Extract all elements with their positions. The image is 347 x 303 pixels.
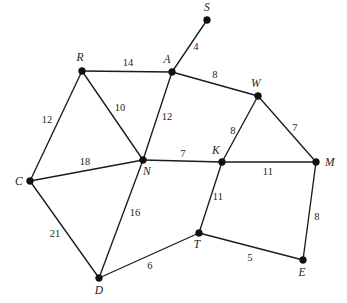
graph-node-t: [196, 230, 203, 237]
graph-node-a: [169, 69, 176, 76]
graph-node-r: [79, 68, 86, 75]
edge-layer: [30, 20, 316, 278]
graph-node-k: [219, 159, 226, 166]
graph-edge-c-d: [30, 181, 99, 278]
graph-node-c: [27, 178, 34, 185]
graph-edge-n-k: [143, 160, 222, 162]
graph-edge-w-m: [258, 96, 316, 162]
graph-node-d: [96, 275, 103, 282]
graph-node-s: [204, 17, 211, 24]
graph-node-e: [300, 257, 307, 264]
graph-edge-r-n: [82, 71, 143, 160]
graph-edge-t-e: [199, 233, 303, 260]
graph-node-m: [313, 159, 320, 166]
graph-edge-c-n: [30, 160, 143, 181]
graph-edge-w-k: [222, 96, 258, 162]
graph-edge-r-a: [82, 71, 172, 72]
graph-node-w: [255, 93, 262, 100]
graph-node-n: [140, 157, 147, 164]
graph-edge-a-n: [143, 72, 172, 160]
graph-canvas: [0, 0, 347, 303]
weighted-graph-figure: 41481210128718711161121865SRAWCNKMTDE: [0, 0, 347, 303]
graph-edge-n-d: [99, 160, 143, 278]
graph-edge-a-w: [172, 72, 258, 96]
graph-edge-r-c: [30, 71, 82, 181]
graph-edge-m-e: [303, 162, 316, 260]
node-layer: [27, 17, 320, 282]
graph-edge-d-t: [99, 233, 199, 278]
graph-edge-k-t: [199, 162, 222, 233]
graph-edge-a-s: [172, 20, 207, 72]
